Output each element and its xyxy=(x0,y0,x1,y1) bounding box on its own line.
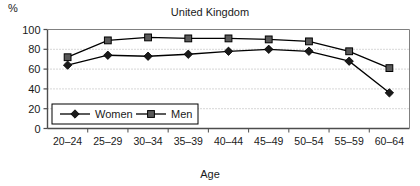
x-tick-label: 55–59 xyxy=(335,135,364,147)
data-point-women xyxy=(184,50,192,58)
y-tick-label: 100 xyxy=(22,24,40,36)
data-point-men xyxy=(346,48,353,55)
data-point-women xyxy=(63,61,71,69)
x-tick-label: 20–24 xyxy=(53,135,82,147)
data-point-men xyxy=(185,35,192,42)
data-point-men xyxy=(104,37,111,44)
x-tick-label: 60–64 xyxy=(375,135,404,147)
data-point-women xyxy=(224,47,232,55)
x-tick-label: 45–49 xyxy=(254,135,283,147)
data-point-men xyxy=(64,54,71,61)
x-tick-label: 50–54 xyxy=(294,135,323,147)
series-markers-group xyxy=(63,34,393,97)
gridlines-group xyxy=(48,49,410,108)
data-point-men xyxy=(225,35,232,42)
x-tick-label: 35–39 xyxy=(174,135,203,147)
data-point-men xyxy=(265,36,272,43)
data-point-women xyxy=(144,52,152,60)
y-tick-label: 60 xyxy=(28,63,40,75)
series-lines-group xyxy=(68,37,390,92)
y-tick-label: 40 xyxy=(28,83,40,95)
data-point-women xyxy=(305,47,313,55)
legend-label-men[interactable]: Men xyxy=(171,108,192,120)
chart-container: % United Kingdom Age 020406080100 20–242… xyxy=(0,0,420,186)
data-point-men xyxy=(145,34,152,41)
data-point-women xyxy=(104,51,112,59)
x-tick-label: 40–44 xyxy=(214,135,243,147)
chart-legend[interactable]: WomenMen xyxy=(52,104,198,124)
legend-label-women[interactable]: Women xyxy=(95,108,133,120)
y-tick-label: 0 xyxy=(34,123,40,135)
y-tick-label: 80 xyxy=(28,43,40,55)
x-tick-label: 25–29 xyxy=(93,135,122,147)
data-point-women xyxy=(265,45,273,53)
y-axis-ticks-group: 020406080100 xyxy=(22,24,47,135)
x-axis-ticks-group: 20–2425–2930–3435–3940–4445–4950–5455–59… xyxy=(53,129,404,147)
chart-plot: 020406080100 20–2425–2930–3435–3940–4445… xyxy=(0,0,420,186)
x-tick-label: 30–34 xyxy=(133,135,162,147)
legend-marker-men xyxy=(148,111,155,118)
data-point-men xyxy=(306,38,313,45)
y-tick-label: 20 xyxy=(28,103,40,115)
data-point-men xyxy=(386,65,393,72)
